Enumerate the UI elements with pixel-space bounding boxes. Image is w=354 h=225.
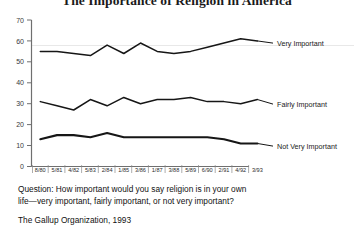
x-tick-label: 2/91 [219, 167, 230, 173]
leader-line-very-important [257, 41, 273, 43]
y-tick-label: 60 [16, 38, 24, 45]
series-line-not-very-important [40, 133, 257, 143]
y-ticks [27, 20, 32, 167]
x-tick-label: 3/88 [168, 167, 179, 173]
y-tick-label: 20 [16, 121, 24, 128]
series-line-very-important [40, 39, 257, 56]
series-line-fairly-important [40, 97, 257, 110]
y-tick-label: 70 [16, 17, 24, 24]
leader-line-fairly-important [257, 100, 273, 105]
x-tick-label: 4/82 [68, 167, 79, 173]
x-tick-label: 5/83 [85, 167, 96, 173]
x-tick-label: 1/85 [118, 167, 129, 173]
x-tick-label: 3/86 [135, 167, 146, 173]
x-tick-labels: 8/80 5/81 4/82 5/83 2/84 1/85 3/86 1/87 … [35, 167, 263, 173]
series-group [40, 39, 257, 144]
leader-lines [257, 41, 273, 146]
chart-question-caption: Question: How important would you say re… [18, 184, 340, 207]
x-tick-label: 4/92 [235, 167, 246, 173]
x-tick-label: 6/90 [202, 167, 213, 173]
question-line-1: Question: How important would you say re… [18, 184, 340, 196]
chart-title: The Importance of Religion in America [0, 0, 354, 9]
chart-source: The Gallup Organization, 1993 [18, 215, 340, 225]
question-line-2: life—very important, fairly important, o… [18, 196, 340, 208]
y-tick-label: 30 [16, 100, 24, 107]
chart-page: The Importance of Religion in America [0, 0, 354, 225]
leader-line-not-very-important [257, 143, 273, 146]
series-label-very-important: Very Important [277, 39, 324, 48]
y-axis: 70 60 50 40 30 20 10 0 [16, 17, 31, 171]
y-tick-label: 40 [16, 79, 24, 86]
x-axis: 8/80 5/81 4/82 5/83 2/84 1/85 3/86 1/87 … [32, 165, 263, 173]
line-chart-svg: 70 60 50 40 30 20 10 0 [0, 12, 354, 180]
y-tick-label: 50 [16, 58, 24, 65]
x-tick-label: 5/89 [185, 167, 196, 173]
y-tick-labels: 70 60 50 40 30 20 10 0 [16, 17, 24, 171]
x-tick-label: 8/80 [35, 167, 46, 173]
series-label-fairly-important: Fairly Important [277, 100, 327, 109]
x-tick-label: 5/81 [52, 167, 63, 173]
x-tick-label: 2/84 [102, 167, 113, 173]
y-tick-label: 0 [20, 163, 24, 170]
y-tick-label: 10 [16, 142, 24, 149]
x-tick-label: 1/87 [152, 167, 163, 173]
plot-area: 70 60 50 40 30 20 10 0 [0, 12, 354, 180]
series-labels: Very Important Fairly Important Not Very… [277, 39, 337, 151]
series-label-not-very-important: Not Very Important [277, 142, 337, 151]
x-tick-label: 3/93 [252, 167, 263, 173]
